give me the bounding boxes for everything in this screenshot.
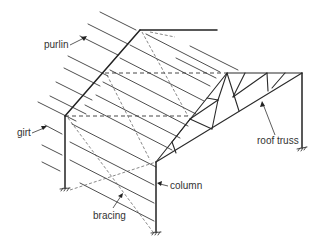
bracing-label: bracing — [93, 210, 126, 221]
roof-truss-label: roof truss — [257, 135, 299, 146]
steel-frame-diagram: purlin girt bracing column roof truss — [0, 0, 323, 252]
main-frame — [65, 30, 302, 232]
arrow-icon — [157, 181, 162, 186]
column-bases — [60, 147, 307, 235]
arrow-icon — [118, 193, 123, 198]
purlin-label: purlin — [44, 39, 68, 50]
label-column: column — [157, 180, 202, 191]
bracing-lines — [65, 32, 226, 232]
girt-label: girt — [17, 127, 31, 138]
arrow-icon — [41, 126, 47, 130]
label-roof-truss: roof truss — [257, 101, 299, 146]
arrow-icon — [260, 101, 265, 107]
column-label: column — [170, 180, 202, 191]
roof-truss — [156, 73, 302, 162]
label-purlin: purlin — [44, 36, 87, 50]
label-bracing: bracing — [93, 193, 126, 221]
label-girt: girt — [17, 126, 47, 138]
